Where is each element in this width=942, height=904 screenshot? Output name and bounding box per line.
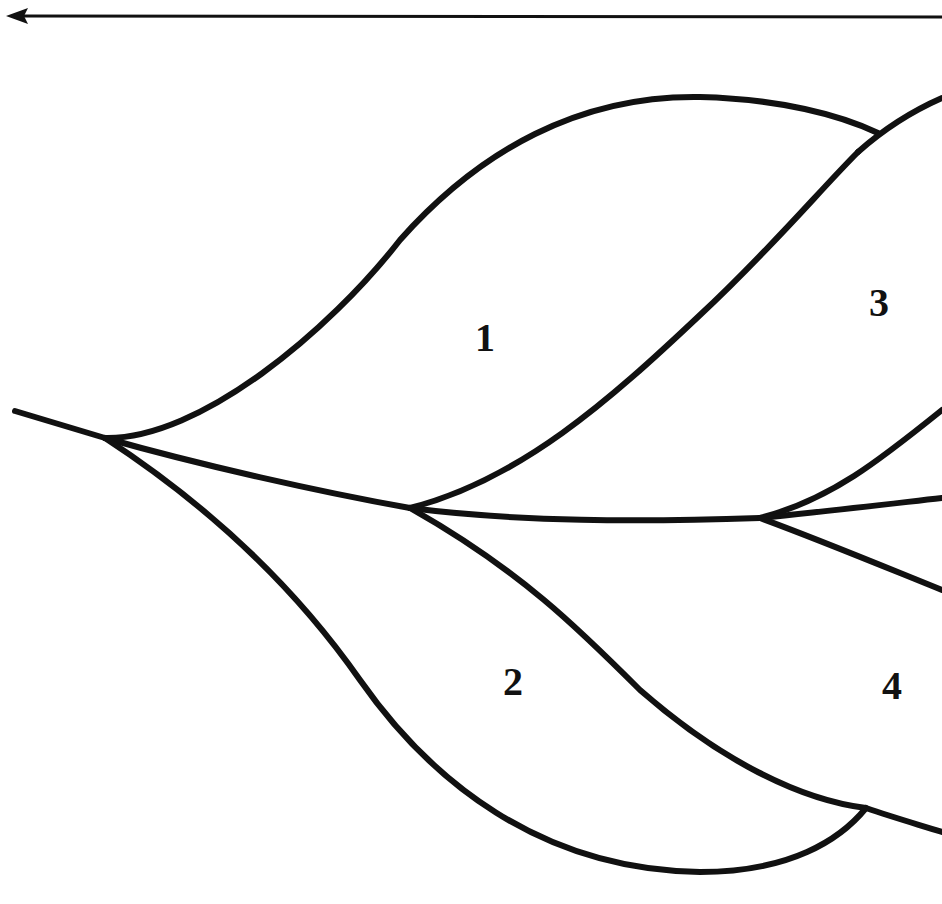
branch-lines: [0, 0, 942, 904]
clade-label-1: 1: [475, 318, 495, 358]
time-arrow-line: [22, 16, 942, 17]
tree-diagram: 1 2 3 4: [0, 0, 942, 904]
clade-label-3: 3: [869, 283, 889, 323]
clade-label-2: 2: [503, 662, 523, 702]
n2-lower-branch: [760, 518, 942, 590]
clade-label-4: 4: [882, 666, 902, 706]
n1-to-n2-branch: [410, 508, 760, 520]
stem-branch: [15, 411, 105, 438]
top-right-branch: [858, 98, 942, 152]
lower-outer-branch: [105, 438, 866, 872]
upper-outer-branch: [105, 97, 878, 438]
